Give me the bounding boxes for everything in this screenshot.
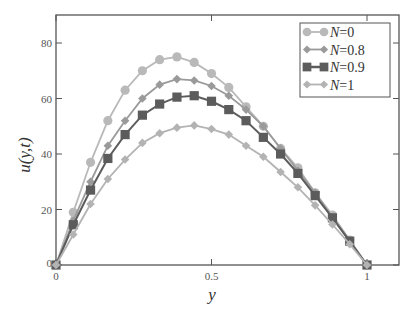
circle-marker [172,52,181,61]
circle-marker [303,28,312,37]
square-marker [293,169,302,178]
series-line [56,125,367,265]
square-marker [172,93,181,102]
x-tick-label: 1 [364,270,370,282]
legend: N=0N=0.8N=0.9N=1 [300,23,390,97]
y-tick-label: 60 [41,93,53,105]
x-axis-label: y [206,285,216,304]
diamond-marker [155,129,164,138]
circle-marker [138,66,147,75]
y-tick-label: 80 [41,37,53,49]
y-tick-label: 40 [41,148,53,160]
square-marker [138,111,147,120]
square-marker [241,116,250,125]
square-marker [190,91,199,100]
circle-marker [320,28,329,37]
circle-marker [121,86,130,95]
circle-marker [86,158,95,167]
y-axis-label: u(y,t) [15,137,34,173]
legend-label: N=0.9 [329,60,365,75]
square-marker [224,105,233,114]
square-marker [155,99,164,108]
diamond-marker [207,125,216,134]
square-marker [207,97,216,106]
square-marker [320,63,329,72]
series-n-0-9 [51,91,371,269]
legend-label: N=0 [329,25,354,40]
diamond-marker [173,75,182,84]
x-tick-label: 0 [53,270,59,282]
y-tick-label: 20 [41,204,53,216]
diamond-marker [173,123,182,132]
diamond-marker [207,82,216,91]
square-marker [103,154,112,163]
circle-marker [103,116,112,125]
square-marker [311,191,320,200]
series-line [56,79,367,265]
square-marker [259,133,268,142]
diamond-marker [190,121,199,130]
legend-label: N=1 [329,78,354,93]
diamond-marker [190,76,199,85]
series-line [56,96,367,265]
diamond-marker [242,141,251,150]
square-marker [86,185,95,194]
circle-marker [155,55,164,64]
circle-marker [224,83,233,92]
circle-marker [207,69,216,78]
diamond-marker [224,130,233,139]
x-tick-label: 0.5 [205,270,219,282]
square-marker [276,149,285,158]
circle-marker [190,58,199,67]
square-marker [121,130,130,139]
legend-label: N=0.8 [329,43,365,58]
line-chart: 00.51020406080 N=0N=0.8N=0.9N=1 y u(y,t) [0,0,411,312]
square-marker [303,63,312,72]
series-n-1 [52,121,372,269]
